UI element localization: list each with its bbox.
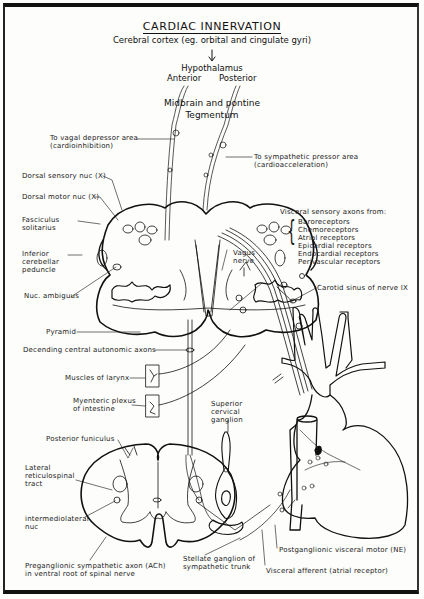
sympathetic-chain xyxy=(209,420,243,534)
vagus-label-2: nerve xyxy=(233,257,254,266)
descending-axons-label: Decending central autonomic axons xyxy=(23,346,156,355)
medulla-internal xyxy=(97,222,317,316)
fasciculus-label-2: solitarius xyxy=(22,224,56,233)
receptor-brace: { xyxy=(287,218,296,246)
sympathetic-pressor-sub: (cardioacceleration) xyxy=(254,161,328,170)
cortex-arrow xyxy=(209,50,215,61)
pyramid-label: Pyramid xyxy=(46,328,76,337)
dorsal-sensory-label: Dorsal sensory nuc (X) xyxy=(22,172,106,181)
visceral-sensory-header: Visceral sensory axons from: xyxy=(280,208,386,217)
tegmentum-label: Tegmentum xyxy=(0,110,424,120)
preganglionic-fibers xyxy=(186,455,295,540)
nuc-ambiguus-label: Nuc. ambiguus xyxy=(24,292,79,301)
receptor-item: Perivascular receptors xyxy=(298,258,380,267)
visceral-afferent-label: Visceral afferent (atrial receptor) xyxy=(266,567,388,576)
carotid-sinus-label: Carotid sinus of nerve IX xyxy=(317,284,408,293)
dorsal-motor-label: Dorsal motor nuc (X) xyxy=(22,193,99,202)
page-title: CARDIAC INNERVATION xyxy=(0,20,424,33)
preganglionic-label-2: in ventral root of spinal nerve xyxy=(25,570,135,579)
intermediolateral-label-2: nuc xyxy=(25,523,38,532)
posterior-label: Posterior xyxy=(219,73,257,83)
myenteric-label-2: of intestine xyxy=(73,405,115,414)
heart xyxy=(282,395,407,538)
hypothalamus-label: Hypothalamus xyxy=(0,63,424,73)
posterior-funiculus-label: Posterior funiculus xyxy=(46,435,115,444)
cardiac-innervation-diagram: CARDIAC INNERVATION Cerebral cortex (eg.… xyxy=(0,0,424,599)
midbrain-label: Midbrain and pontine xyxy=(0,98,424,108)
medulla xyxy=(97,202,319,337)
postganglionic-label: Postganglionic visceral motor (NE) xyxy=(279,546,406,555)
lateral-reticulospinal-label-3: tract xyxy=(25,480,43,489)
anterior-label: Anterior xyxy=(167,73,201,83)
larynx-label: Muscles of larynx xyxy=(65,374,129,383)
superior-cervical-label-3: ganglion xyxy=(211,416,243,425)
vagal-depressor-sub: (cardioinhibition) xyxy=(50,142,113,151)
inferior-cerebellar-label-3: peduncle xyxy=(22,266,56,275)
cortex-label: Cerebral cortex (eg. orbital and cingula… xyxy=(0,35,424,45)
cardiac-plexus xyxy=(300,430,360,490)
stellate-ganglion-label-2: sympathetic trunk xyxy=(183,563,251,572)
central-autonomic-axon xyxy=(186,320,194,455)
